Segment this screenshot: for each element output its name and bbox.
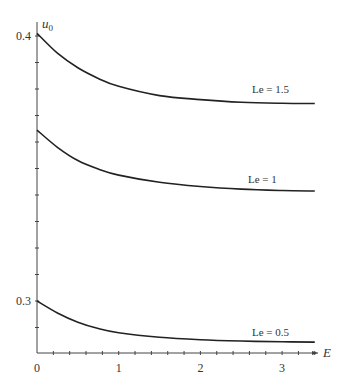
x-tick-label-0: 0 — [34, 361, 40, 375]
series-label-le-1: Le = 1 — [248, 173, 277, 185]
series-label-le-1.5: Le = 1.5 — [252, 83, 290, 95]
axes — [37, 22, 318, 355]
x-tick-label-1: 1 — [116, 361, 122, 375]
series-lines — [37, 33, 315, 342]
y-tick-label-0.3: 0.3 — [16, 294, 31, 308]
line-chart: 0.4 0.3 0 1 2 3 u0 E Le = 1.5 Le = 1 Le … — [0, 0, 347, 388]
y-axis-title: u0 — [42, 16, 54, 33]
x-axis-title: E — [322, 345, 331, 360]
x-tick-label-3: 3 — [279, 361, 285, 375]
series-label-le-0.5: Le = 0.5 — [252, 326, 290, 338]
y-tick-label-0.4: 0.4 — [16, 29, 31, 43]
x-tick-label-2: 2 — [197, 361, 203, 375]
